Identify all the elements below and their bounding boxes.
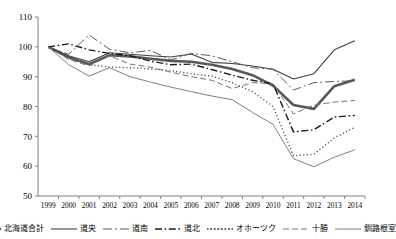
legend-line-swatch	[103, 224, 129, 234]
y-axis-tick-label: 90	[23, 72, 33, 82]
x-axis-tick-label: 1999	[41, 201, 56, 210]
legend-item[interactable]: 十勝	[283, 224, 328, 234]
y-axis-group: 5060708090100110	[19, 12, 39, 201]
legend-label: 道央	[80, 224, 96, 234]
x-axis-group: 1999200020012002200320042005200620072008…	[38, 196, 365, 210]
x-axis-tick-label: 2011	[286, 201, 301, 210]
legend-item[interactable]: 釧路根室	[335, 224, 396, 234]
x-axis-tick-label: 2010	[266, 201, 281, 210]
legend-label: オホーツク	[236, 224, 276, 234]
legend-label: 道南	[132, 224, 148, 234]
x-axis-tick-label: 2003	[123, 201, 138, 210]
y-axis-tick-label: 100	[19, 42, 33, 52]
x-axis-tick-label: 2009	[245, 201, 260, 210]
x-axis-tick-label: 2002	[102, 201, 117, 210]
legend-item[interactable]: 道央	[51, 224, 96, 234]
legend-label: 十勝	[312, 224, 328, 234]
chart-legend: 北海道合計道央道南道北オホーツク十勝釧路根室	[0, 219, 370, 239]
series-group	[48, 35, 355, 167]
y-axis-tick-label: 50	[23, 191, 33, 201]
x-axis-tick-label: 2007	[204, 201, 219, 210]
legend-line-swatch	[207, 224, 233, 234]
legend-line-swatch	[335, 224, 361, 234]
y-axis-tick-label: 60	[23, 161, 33, 171]
series-line	[48, 41, 355, 79]
legend-line-swatch	[0, 224, 1, 234]
series-line	[48, 47, 355, 114]
legend-line-swatch	[155, 224, 181, 234]
legend-item[interactable]: 北海道合計	[0, 224, 44, 234]
x-axis-tick-label: 2008	[225, 201, 240, 210]
x-axis-tick-label: 2005	[163, 201, 178, 210]
legend-item[interactable]: 道北	[155, 224, 200, 234]
x-axis-tick-label: 2012	[307, 201, 322, 210]
legend-label: 釧路根室	[364, 224, 396, 234]
x-axis-tick-label: 2004	[143, 201, 158, 210]
series-line	[48, 47, 355, 109]
x-axis-tick-label: 2001	[82, 201, 97, 210]
x-axis-tick-label: 2006	[184, 201, 199, 210]
x-axis-tick-label: 2013	[327, 201, 342, 210]
legend-label: 道北	[184, 224, 200, 234]
chart-plot-area: 5060708090100110 19992000200120022003200…	[0, 0, 370, 215]
legend-item[interactable]: オホーツク	[207, 224, 276, 234]
legend-line-swatch	[283, 224, 309, 234]
y-axis-tick-label: 110	[19, 12, 33, 22]
series-line	[48, 44, 355, 132]
legend-item[interactable]: 道南	[103, 224, 148, 234]
legend-label: 北海道合計	[4, 224, 44, 234]
legend-line-swatch	[51, 224, 77, 234]
y-axis-tick-label: 80	[23, 102, 33, 112]
x-axis-tick-label: 2014	[347, 201, 362, 210]
y-axis-tick-label: 70	[23, 132, 33, 142]
x-axis-tick-label: 2000	[61, 201, 76, 210]
